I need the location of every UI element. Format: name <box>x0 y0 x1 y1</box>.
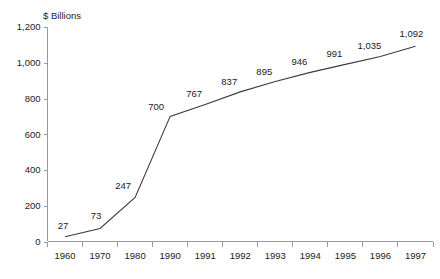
data-point-label: 1,092 <box>400 28 424 39</box>
line-chart: $ Billions 02004006008001,0001,200 19601… <box>0 0 440 279</box>
x-axis-tick-label: 1991 <box>195 250 216 261</box>
data-point-label: 895 <box>256 66 272 77</box>
y-axis-tick-label: 1,200 <box>17 21 41 32</box>
y-axis-tick-label: 1,000 <box>17 57 41 68</box>
data-point-label: 73 <box>91 210 102 221</box>
x-axis-tick-label: 1996 <box>370 250 391 261</box>
y-axis-tick-label: 600 <box>25 129 41 140</box>
x-axis-tick-label: 1960 <box>54 250 75 261</box>
x-axis-tick-marks <box>48 242 434 247</box>
x-axis-tick-label: 1992 <box>230 250 251 261</box>
data-point-label: 27 <box>58 220 69 231</box>
data-point-label: 767 <box>186 88 202 99</box>
x-axis-tick-label: 1994 <box>300 250 321 261</box>
x-axis-tick-label: 1990 <box>160 250 181 261</box>
data-point-label: 837 <box>221 76 237 87</box>
x-axis-tick-label: 1997 <box>405 250 426 261</box>
x-axis-tick-label: 1980 <box>125 250 146 261</box>
x-axis-tick-label: 1993 <box>265 250 286 261</box>
chart-canvas: $ Billions 02004006008001,0001,200 19601… <box>0 0 440 279</box>
y-axis-title: $ Billions <box>43 10 81 21</box>
data-point-label: 946 <box>291 56 307 67</box>
data-point-label: 247 <box>115 180 131 191</box>
x-axis-tick-labels: 1960197019801990199119921993199419951996… <box>54 250 426 261</box>
data-point-label: 700 <box>148 101 164 112</box>
y-axis-tick-label: 800 <box>25 93 41 104</box>
y-axis-tick-label: 0 <box>35 236 40 247</box>
y-axis-tick-label: 400 <box>25 164 41 175</box>
y-axis-tick-marks <box>44 28 48 243</box>
x-axis-tick-label: 1970 <box>89 250 110 261</box>
data-point-label: 1,035 <box>358 40 382 51</box>
data-series-line <box>65 46 415 236</box>
data-point-label: 991 <box>326 48 342 59</box>
y-axis-tick-label: 200 <box>25 200 41 211</box>
x-axis-tick-label: 1995 <box>335 250 356 261</box>
y-axis-tick-labels: 02004006008001,0001,200 <box>17 21 41 247</box>
